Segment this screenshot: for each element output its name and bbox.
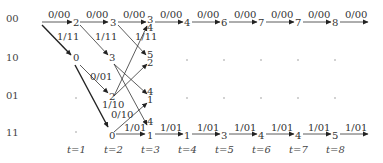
- time-label: t=1: [67, 144, 86, 155]
- path-metric: 4: [295, 130, 301, 141]
- edge-label: 0/00: [308, 9, 330, 20]
- edge-label: 1/01: [271, 122, 293, 133]
- state-label-10: 10: [6, 52, 19, 63]
- edge-label: 1/01: [308, 122, 330, 133]
- path-metric: 2: [147, 57, 153, 68]
- edge-label: 1/01: [197, 122, 219, 133]
- edge-label: 1/01: [160, 122, 182, 133]
- edge-label: 0/00: [197, 9, 219, 20]
- path-metric: 5: [332, 130, 338, 141]
- path-metric: 4: [147, 116, 153, 127]
- path-metric: 8: [332, 17, 338, 28]
- edge-label: 1/11: [135, 31, 157, 42]
- state-label-00: 00: [6, 13, 19, 24]
- path-metric: 4: [258, 130, 264, 141]
- edge-label: 1/11: [95, 31, 117, 42]
- path-metric: 7: [295, 17, 301, 28]
- path-metric: 6: [221, 17, 227, 28]
- path-metric: 2: [73, 17, 79, 28]
- edge-label: 0/00: [86, 9, 108, 20]
- edge-label: 1/01: [234, 122, 256, 133]
- state-label-11: 11: [6, 127, 19, 138]
- state-label-01: 01: [6, 90, 19, 101]
- edge-label: 0/00: [234, 9, 256, 20]
- path-metric: 0: [73, 52, 79, 63]
- time-label: t=3: [141, 144, 160, 155]
- time-label: t=7: [289, 144, 308, 155]
- edge-label: 0/00: [271, 9, 293, 20]
- path-metric: 0: [109, 130, 115, 141]
- trellis-diagram: 00 10 01 11 0/00 0/00 0/00 0/00 0/00 0/0…: [0, 0, 383, 163]
- edge-label: 0/01: [90, 71, 112, 82]
- path-metric: 7: [258, 17, 264, 28]
- time-label: t=6: [252, 144, 271, 155]
- edge-label: 0/00: [345, 9, 367, 20]
- time-label: t=2: [104, 144, 123, 155]
- edge-label: 0/10: [111, 109, 133, 120]
- time-label: t=4: [178, 144, 197, 155]
- time-label: t=5: [215, 144, 234, 155]
- path-metric: 1: [147, 94, 153, 105]
- time-label: t=8: [326, 144, 345, 155]
- edge-label: 1/01: [124, 122, 146, 133]
- edge-label: 0/00: [48, 9, 70, 20]
- path-metric: 3: [110, 17, 116, 28]
- edge-label: 1/11: [57, 31, 79, 42]
- edge-label: 1/01: [345, 122, 367, 133]
- edge-label: 0/00: [123, 9, 145, 20]
- path-metric: 3: [221, 130, 227, 141]
- path-metric: 4: [184, 17, 190, 28]
- path-metric: 1: [147, 130, 153, 141]
- path-metric: 2: [109, 91, 115, 102]
- path-metric: 1: [184, 130, 190, 141]
- edge-label: 0/00: [160, 9, 182, 20]
- path-metric: 3: [109, 52, 115, 63]
